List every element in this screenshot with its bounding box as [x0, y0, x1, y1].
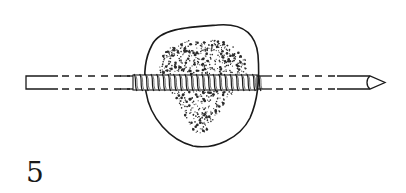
- threaded-section: [133, 74, 262, 91]
- pin-tip-bevel: [367, 76, 370, 89]
- rod-right-segment: [257, 76, 385, 89]
- pin-through-bone-diagram: [0, 0, 406, 193]
- rod-left-segment: [26, 76, 134, 89]
- figure-number-label: 5: [26, 158, 44, 188]
